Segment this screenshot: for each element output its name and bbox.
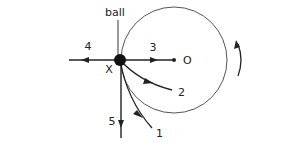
path-4-label: 4 [85, 40, 92, 53]
path-1-label: 1 [156, 127, 163, 140]
ball-label: ball [105, 6, 125, 19]
rotation-arc [238, 44, 241, 76]
path-5-arrow-icon [118, 120, 124, 128]
diagram-svg: ball 4 3 O 2 1 5 X [0, 0, 303, 147]
center-point [172, 58, 176, 62]
ball [114, 54, 126, 66]
path-5-label: 5 [109, 115, 116, 128]
circular-motion-diagram: ball 4 3 O 2 1 5 X [0, 0, 303, 147]
path-3-arrow-icon [150, 57, 158, 63]
path-2-label: 2 [178, 86, 185, 99]
path-4-arrow-icon [81, 57, 89, 63]
path-3-label: 3 [150, 41, 157, 54]
origin-label: O [183, 54, 192, 67]
path-1-curve [120, 60, 152, 128]
point-x-label: X [105, 63, 113, 76]
